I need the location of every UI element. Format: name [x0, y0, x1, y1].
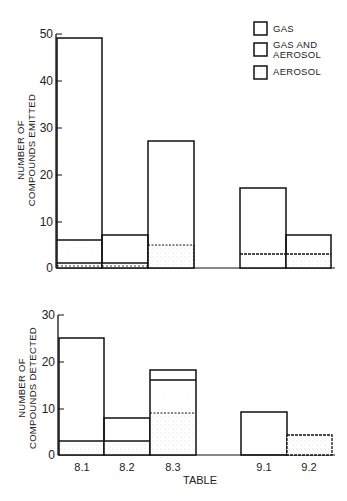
svg-text:10: 10 [40, 215, 54, 229]
svg-text:30: 30 [40, 121, 54, 135]
top-bar-8-1 [57, 38, 102, 268]
bottom-bar-8-1 [59, 338, 104, 455]
bottom-chart: 30 20 10 0 NUMBER OF COMPOUNDS DETECTED [16, 308, 335, 486]
svg-text:0: 0 [46, 261, 53, 275]
bottom-y-tick-labels: 30 20 10 0 [42, 308, 56, 462]
svg-text:9.1: 9.1 [256, 461, 271, 473]
svg-text:50: 50 [40, 27, 54, 41]
top-bar-8-2 [102, 235, 148, 268]
legend-item-gas-and-aerosol: GAS AND AEROSOL [254, 39, 321, 60]
bottom-bar-8-2 [104, 418, 150, 455]
bottom-x-tick-labels: 8.1 8.2 8.3 9.1 9.2 [74, 461, 316, 473]
svg-text:40: 40 [40, 74, 54, 88]
svg-text:8.2: 8.2 [119, 461, 134, 473]
svg-text:8.1: 8.1 [74, 461, 89, 473]
svg-text:20: 20 [40, 168, 54, 182]
chart-canvas: 50 40 30 20 10 0 NUMBER OF COMPOUNDS EMI… [0, 0, 347, 501]
top-bar-9-2 [286, 235, 331, 268]
legend-item-gas: GAS [254, 22, 294, 35]
svg-text:20: 20 [42, 355, 56, 369]
svg-text:GAS: GAS [273, 23, 294, 34]
svg-text:9.2: 9.2 [301, 461, 316, 473]
gas-swatch-icon [254, 22, 267, 35]
svg-text:10: 10 [42, 402, 56, 416]
bottom-y-axis-title: NUMBER OF COMPOUNDS DETECTED [16, 327, 38, 449]
svg-text:COMPOUNDS EMITTED: COMPOUNDS EMITTED [26, 94, 37, 206]
gas-and-aerosol-swatch-icon [254, 43, 267, 56]
top-y-tick-labels: 50 40 30 20 10 0 [40, 27, 54, 275]
aerosol-swatch-icon [254, 66, 267, 79]
top-bar-9-1 [240, 188, 286, 268]
legend: GAS GAS AND AEROSOL AEROSOL [254, 22, 321, 79]
bottom-bar-8-3 [150, 370, 196, 455]
svg-text:8.3: 8.3 [165, 461, 180, 473]
svg-text:30: 30 [42, 308, 56, 322]
svg-text:AEROSOL: AEROSOL [273, 49, 321, 60]
svg-text:NUMBER OF: NUMBER OF [16, 358, 27, 418]
svg-text:AEROSOL: AEROSOL [273, 66, 321, 77]
top-y-axis-title: NUMBER OF COMPOUNDS EMITTED [15, 94, 37, 206]
svg-text:NUMBER OF: NUMBER OF [15, 120, 26, 180]
legend-item-aerosol: AEROSOL [254, 66, 321, 79]
svg-text:0: 0 [48, 448, 55, 462]
top-chart: 50 40 30 20 10 0 NUMBER OF COMPOUNDS EMI… [15, 27, 335, 275]
x-axis-title: TABLE [183, 474, 217, 486]
top-bar-8-3 [148, 141, 194, 268]
svg-text:COMPOUNDS DETECTED: COMPOUNDS DETECTED [27, 327, 38, 449]
bottom-bar-9-1 [241, 412, 287, 455]
bottom-bar-9-2 [287, 435, 332, 455]
